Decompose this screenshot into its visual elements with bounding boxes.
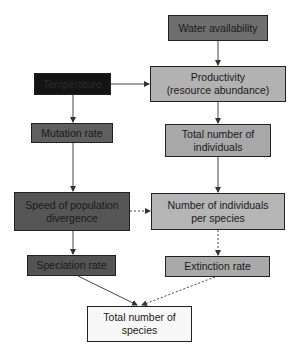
node-water-availability: Water availability <box>168 15 268 41</box>
node-speciation-rate: Speciation rate <box>27 255 116 276</box>
node-label-line2: individuals <box>182 141 254 154</box>
node-productivity: Productivity (resource abundance) <box>150 66 286 102</box>
node-label: Water availability <box>179 22 258 35</box>
node-label-line2: (resource abundance) <box>167 84 270 97</box>
node-label-line1: Total number of <box>103 311 175 324</box>
node-total-individuals: Total number of individuals <box>165 124 271 157</box>
node-label-line2: species <box>103 324 175 337</box>
node-label: Temperature <box>43 78 102 91</box>
node-label: Speciation rate <box>36 259 106 272</box>
node-total-species: Total number of species <box>87 306 192 342</box>
node-label-line2: divergence <box>25 212 118 225</box>
node-label-line1: Total number of <box>182 128 254 141</box>
node-temperature: Temperature <box>34 73 111 95</box>
edge-extinction-total-species <box>142 277 215 305</box>
node-label-line2: per species <box>168 212 269 225</box>
node-extinction-rate: Extinction rate <box>165 256 270 277</box>
node-label: Mutation rate <box>41 127 102 140</box>
node-label: Extinction rate <box>184 260 251 273</box>
edge-speciation-total-species <box>78 276 137 305</box>
node-individuals-per-species: Number of individuals per species <box>151 193 285 230</box>
node-label-line1: Speed of population <box>25 199 118 212</box>
node-speed-of-divergence: Speed of population divergence <box>14 192 130 231</box>
node-label-line1: Productivity <box>167 71 270 84</box>
node-label-line1: Number of individuals <box>168 199 269 212</box>
edges-layer <box>0 0 300 354</box>
node-mutation-rate: Mutation rate <box>31 123 113 143</box>
